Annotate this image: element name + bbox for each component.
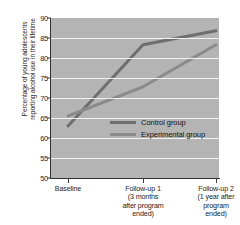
legend-item-experimental: Experimental group	[110, 130, 205, 139]
y-tick-mark	[47, 118, 51, 119]
x-tick-label: Baseline	[32, 185, 104, 193]
y-tick-label: 60	[26, 134, 48, 143]
gridline	[51, 78, 219, 79]
gridline	[51, 158, 219, 159]
y-tick-label: 85	[26, 34, 48, 43]
plot-area	[51, 18, 219, 178]
line-chart: Percentage of young adolescents reportin…	[0, 0, 240, 225]
y-tick-mark	[47, 138, 51, 139]
y-tick-label: 50	[26, 174, 48, 183]
x-tick-label-line: ended)	[132, 209, 153, 218]
legend-item-control: Control group	[110, 118, 205, 127]
series-line-experimental	[68, 45, 216, 116]
y-tick-label: 55	[26, 154, 48, 163]
x-tick-label-line: ended)	[205, 209, 226, 218]
x-tick-label: Follow-up 1(3 monthsafter programended)	[107, 185, 179, 219]
gridline	[51, 38, 219, 39]
legend-swatch-control	[110, 121, 136, 124]
y-tick-label: 70	[26, 94, 48, 103]
y-tick-mark	[47, 78, 51, 79]
gridline	[51, 98, 219, 99]
legend-label-experimental: Experimental group	[141, 130, 205, 139]
y-tick-mark	[47, 18, 51, 19]
legend-swatch-experimental	[110, 133, 136, 136]
gridline	[51, 58, 219, 59]
y-tick-mark	[47, 158, 51, 159]
y-tick-label: 75	[26, 74, 48, 83]
y-tick-mark	[47, 58, 51, 59]
y-tick-mark	[47, 38, 51, 39]
legend-label-control: Control group	[141, 118, 186, 127]
y-tick-label: 80	[26, 54, 48, 63]
x-tick-label-line: Baseline	[55, 184, 81, 193]
y-tick-mark	[47, 98, 51, 99]
x-tick-label: Follow-up 2(1 year afterprogramended)	[180, 185, 240, 219]
y-tick-label: 65	[26, 114, 48, 123]
y-tick-label: 90	[26, 14, 48, 23]
x-tick-mark	[143, 179, 144, 183]
x-axis-line	[50, 178, 220, 179]
y-tick-mark	[47, 178, 51, 179]
chart-legend: Control group Experimental group	[110, 118, 205, 139]
x-tick-mark	[216, 179, 217, 183]
x-tick-mark	[68, 179, 69, 183]
